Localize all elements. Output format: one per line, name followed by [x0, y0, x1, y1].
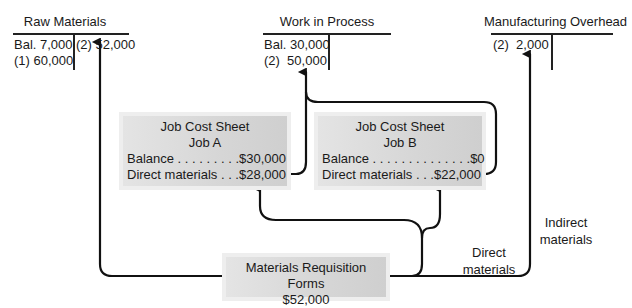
- job-name: Job B: [322, 135, 478, 151]
- direct-materials-row: Direct materials . . . $28,000: [127, 167, 283, 183]
- debit-entry: (2) 2,000: [493, 37, 549, 53]
- balance-label: Balance . . . . . . . . .: [127, 151, 239, 167]
- arrow-job-a-to-wip: [290, 72, 306, 174]
- label-line: materials: [459, 261, 519, 278]
- indirect-materials-label: Indirect materials: [535, 214, 597, 248]
- label-line: Direct: [459, 244, 519, 261]
- job-cost-sheet-a: Job Cost Sheet Job A Balance . . . . . .…: [123, 116, 287, 186]
- label-line: materials: [535, 231, 597, 248]
- credit-entry: (2) 52,000: [76, 37, 135, 53]
- direct-materials-value: $22,000: [434, 167, 481, 183]
- materials-requisition-forms: Materials Requisition Forms $52,000: [226, 257, 386, 297]
- balance-value: $30,000: [239, 151, 286, 167]
- requisition-amount: $52,000: [226, 292, 386, 308]
- balance-row: Balance . . . . . . . . . $30,000: [127, 151, 283, 167]
- balance-label: Balance . . . . . . . . . . . . . .: [322, 151, 470, 167]
- balance-value: $0: [470, 151, 484, 167]
- direct-materials-label: Direct materials: [459, 244, 519, 278]
- account-title: Manufacturing Overhead: [484, 14, 620, 29]
- job-cost-sheet-b: Job Cost Sheet Job B Balance . . . . . .…: [318, 116, 482, 186]
- t-account-divider: [551, 34, 553, 70]
- balance-row: Balance . . . . . . . . . . . . . . $0: [322, 151, 478, 167]
- arrow-direct-materials-trunk: [412, 238, 422, 276]
- direct-materials-label: Direct materials . . .: [322, 167, 434, 183]
- account-title: Work in Process: [262, 14, 392, 29]
- sheet-title: Job Cost Sheet: [127, 119, 283, 135]
- debit-entry: Bal. 30,000: [264, 37, 330, 53]
- t-account-rule: [263, 33, 391, 35]
- sheet-title: Job Cost Sheet: [322, 119, 478, 135]
- label-line: Indirect: [535, 214, 597, 231]
- direct-materials-row: Direct materials . . . $22,000: [322, 167, 478, 183]
- t-account-rule: [13, 33, 129, 35]
- debit-entry: (2) 50,000: [264, 53, 327, 69]
- debit-entry: Bal. 7,000: [14, 37, 73, 53]
- direct-materials-value: $28,000: [239, 167, 286, 183]
- arrow-direct-to-job-b: [422, 188, 440, 238]
- requisition-title: Materials Requisition Forms: [226, 260, 386, 292]
- direct-materials-label: Direct materials . . .: [127, 167, 239, 183]
- debit-entry: (1) 60,000: [14, 53, 73, 69]
- account-title: Raw Materials: [0, 14, 130, 29]
- arrow-direct-to-job-a: [260, 188, 422, 238]
- job-name: Job A: [127, 135, 283, 151]
